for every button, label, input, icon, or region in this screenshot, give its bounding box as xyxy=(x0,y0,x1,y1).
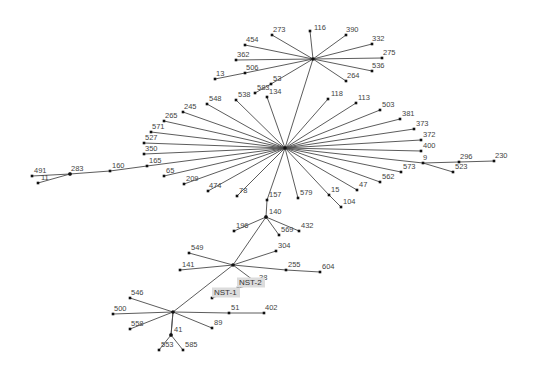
node-label: 558 xyxy=(131,319,144,328)
tree-node xyxy=(235,59,238,62)
tree-edge xyxy=(267,97,285,148)
node-label: 454 xyxy=(246,35,259,44)
spanning-tree-diagram: 1162733904543323622755365061326453583134… xyxy=(0,0,533,375)
tree-node xyxy=(179,269,182,272)
tree-node xyxy=(266,199,269,202)
tree-node xyxy=(493,160,496,163)
tree-node xyxy=(285,269,288,272)
tree-edge xyxy=(313,58,382,59)
node-label: 390 xyxy=(346,25,359,34)
node-label: 51 xyxy=(231,303,239,312)
tree-node xyxy=(422,162,425,165)
node-label: 113 xyxy=(358,93,370,102)
node-label: 89 xyxy=(214,318,222,327)
node-label: 402 xyxy=(265,303,278,312)
node-label: 245 xyxy=(184,102,197,111)
label-layer: 1162733904543323622755365061326453583134… xyxy=(34,23,508,349)
tree-edge xyxy=(423,162,459,163)
tree-node xyxy=(31,175,34,178)
node-label: 165 xyxy=(149,156,162,165)
tree-edge xyxy=(285,99,328,148)
tree-node xyxy=(214,78,217,81)
tree-node xyxy=(379,181,382,184)
node-label: 140 xyxy=(269,207,282,216)
tree-node xyxy=(182,349,185,352)
tree-node xyxy=(420,139,423,142)
node-label: 503 xyxy=(382,100,395,109)
tree-node xyxy=(266,96,269,99)
tree-node xyxy=(270,83,273,86)
tree-node xyxy=(244,44,247,47)
tree-node xyxy=(183,183,186,186)
node-label: 118 xyxy=(331,89,343,98)
hub-node xyxy=(171,310,175,314)
node-label: 230 xyxy=(495,151,508,160)
tree-node xyxy=(235,99,238,102)
node-label: 196 xyxy=(236,221,249,230)
tree-node xyxy=(420,150,423,153)
node-label: 104 xyxy=(343,197,356,206)
tree-node xyxy=(129,328,132,331)
node-label: 400 xyxy=(423,141,436,150)
node-label: 209 xyxy=(186,174,199,183)
tree-node xyxy=(143,153,146,156)
node-label: 47 xyxy=(359,180,367,189)
tree-node xyxy=(112,313,115,316)
tree-node xyxy=(298,230,301,233)
tree-edge xyxy=(329,195,341,207)
node-label: 265 xyxy=(165,111,178,120)
node-label: 500 xyxy=(114,304,127,313)
node-label: 523 xyxy=(455,162,468,171)
tree-node xyxy=(206,103,209,106)
node-label: 474 xyxy=(209,181,222,190)
node-label: 273 xyxy=(273,25,286,34)
node-label: NST-1 xyxy=(214,288,237,297)
node-label: 275 xyxy=(383,48,396,57)
tree-node xyxy=(109,170,112,173)
tree-edge xyxy=(310,31,313,59)
node-label: 585 xyxy=(185,340,198,349)
tree-node xyxy=(263,312,266,315)
tree-node xyxy=(129,297,132,300)
node-label: 548 xyxy=(209,94,222,103)
tree-node xyxy=(278,234,281,237)
node-label: 536 xyxy=(372,61,385,70)
tree-node xyxy=(356,189,359,192)
tree-node xyxy=(452,171,455,174)
tree-node xyxy=(328,194,331,197)
tree-node xyxy=(297,197,300,200)
tree-node xyxy=(275,250,278,253)
node-label: 381 xyxy=(402,109,415,118)
node-label: 546 xyxy=(131,288,144,297)
tree-edge xyxy=(286,270,320,272)
tree-node xyxy=(211,327,214,330)
edge-layer xyxy=(32,31,494,350)
node-label: 296 xyxy=(460,152,473,161)
tree-node xyxy=(309,30,312,33)
tree-edge xyxy=(207,104,285,148)
tree-edge xyxy=(272,35,313,59)
node-label: 332 xyxy=(372,34,385,43)
node-label: 350 xyxy=(145,144,158,153)
tree-node xyxy=(399,118,402,121)
node-label: 9 xyxy=(423,153,427,162)
node-label: 604 xyxy=(322,262,335,271)
node-label: 116 xyxy=(314,23,326,32)
tree-node xyxy=(413,128,416,131)
tree-node xyxy=(228,312,231,315)
tree-node xyxy=(265,216,268,219)
node-label: 373 xyxy=(416,119,429,128)
tree-node xyxy=(170,334,173,337)
tree-node xyxy=(355,102,358,105)
node-label: 553 xyxy=(161,340,174,349)
tree-edge xyxy=(173,312,229,313)
node-label: 11 xyxy=(41,173,49,182)
node-label: 549 xyxy=(191,243,204,252)
tree-node xyxy=(37,182,40,185)
node-label: 432 xyxy=(301,221,314,230)
node-label: 283 xyxy=(71,164,84,173)
tree-node xyxy=(69,173,72,176)
node-label: 141 xyxy=(182,260,195,269)
node-layer xyxy=(31,30,496,352)
tree-node xyxy=(163,175,166,178)
